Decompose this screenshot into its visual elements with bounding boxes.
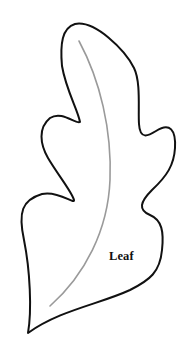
leaf-template: Leaf (0, 0, 185, 359)
leaf-drawing (0, 0, 185, 359)
leaf-label: Leaf (109, 249, 134, 264)
leaf-outline (21, 24, 175, 333)
